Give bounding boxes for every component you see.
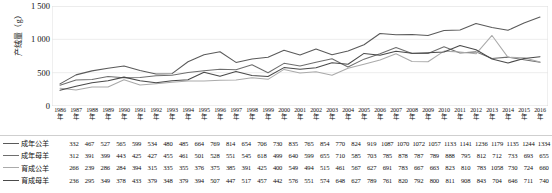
table-cell: 789	[364, 177, 380, 184]
table-cell: 655	[536, 152, 552, 159]
x-tick-unit: 年	[473, 114, 479, 121]
table-cell: 667	[411, 164, 427, 171]
table-cell: 1133	[442, 140, 458, 147]
series-values: 3123913994434254274554615015285515456184…	[66, 152, 552, 159]
table-cell: 888	[442, 152, 458, 159]
table-cell: 691	[379, 164, 395, 171]
table-cell: 1135	[505, 140, 521, 147]
table-cell: 527	[97, 140, 113, 147]
plot-area	[52, 6, 548, 106]
table-cell: 765	[301, 140, 317, 147]
table-cell: 332	[66, 140, 82, 147]
x-tick: 2012年	[468, 107, 484, 134]
table-cell: 1334	[536, 140, 552, 147]
x-tick: 1997年	[228, 107, 244, 134]
table-row: 成年公羊332467527565599534480485664769814654…	[0, 137, 552, 149]
table-cell: 295	[82, 177, 98, 184]
series-values: 3324675275655995344804856647698146547067…	[66, 140, 552, 147]
table-cell: 574	[317, 177, 333, 184]
table-cell: 812	[473, 152, 489, 159]
table-cell: 789	[426, 152, 442, 159]
table-cell: 442	[270, 177, 286, 184]
table-cell: 394	[129, 164, 145, 171]
table-cell: 627	[364, 164, 380, 171]
table-cell: 549	[285, 164, 301, 171]
table-cell: 457	[254, 177, 270, 184]
table-cell: 335	[160, 164, 176, 171]
x-tick: 1986年	[52, 107, 68, 134]
table-cell: 461	[332, 164, 348, 171]
table-cell: 585	[348, 152, 364, 159]
x-tick: 2000年	[276, 107, 292, 134]
y-tick-label: 1 000	[31, 34, 50, 44]
x-tick: 2003年	[324, 107, 340, 134]
table-cell: 919	[364, 140, 380, 147]
x-tick-unit: 年	[297, 114, 303, 121]
chart-figure: 产绒量（g） 05001 0001 500 1986年1987年1988年198…	[0, 0, 552, 193]
x-tick-unit: 年	[361, 114, 367, 121]
table-cell: 730	[270, 140, 286, 147]
table-cell: 627	[348, 177, 364, 184]
series-legend-2: 成年母羊	[0, 150, 66, 160]
table-cell: 724	[520, 164, 536, 171]
table-cell: 654	[238, 140, 254, 147]
legend-line-icon	[3, 167, 19, 168]
table-cell: 567	[348, 164, 364, 171]
table-top-divider	[0, 135, 552, 136]
table-cell: 1179	[489, 140, 505, 147]
table-cell: 349	[97, 177, 113, 184]
x-tick-unit: 年	[249, 114, 255, 121]
table-cell: 378	[113, 177, 129, 184]
table-cell: 480	[160, 140, 176, 147]
table-cell: 545	[238, 152, 254, 159]
table-cell: 878	[395, 152, 411, 159]
x-tick: 2014年	[500, 107, 516, 134]
x-tick: 2009年	[420, 107, 436, 134]
x-tick-unit: 年	[457, 114, 463, 121]
table-cell: 1072	[411, 140, 427, 147]
table-cell: 835	[285, 140, 301, 147]
x-tick-unit: 年	[233, 114, 239, 121]
x-tick: 2002年	[308, 107, 324, 134]
table-cell: 820	[395, 177, 411, 184]
table-cell: 379	[144, 177, 160, 184]
y-tick-label: 500	[37, 68, 50, 78]
table-cell: 710	[332, 152, 348, 159]
table-cell: 515	[317, 164, 333, 171]
y-tick-label: 1 500	[31, 1, 50, 11]
table-cell: 599	[129, 140, 145, 147]
series-values: 2362953493784333793483793945074475174574…	[66, 177, 552, 184]
x-tick: 2015年	[516, 107, 532, 134]
table-cell: 761	[379, 177, 395, 184]
table-body: 成年公羊332467527565599534480485664769814654…	[0, 137, 552, 186]
table-cell: 517	[238, 177, 254, 184]
table-cell: 703	[364, 152, 380, 159]
x-tick: 1999年	[260, 107, 276, 134]
x-tick-unit: 年	[409, 114, 415, 121]
table-cell: 455	[160, 152, 176, 159]
table-cell: 551	[301, 177, 317, 184]
table-cell: 785	[379, 152, 395, 159]
table-cell: 655	[317, 152, 333, 159]
x-tick-unit: 年	[185, 114, 191, 121]
x-tick: 1993年	[164, 107, 180, 134]
table-cell: 640	[285, 152, 301, 159]
table-cell: 467	[82, 140, 98, 147]
table-cell: 433	[129, 177, 145, 184]
table-cell: 379	[176, 177, 192, 184]
table-cell: 394	[191, 177, 207, 184]
table-cell: 286	[97, 164, 113, 171]
table-cell: 266	[66, 164, 82, 171]
table-cell: 800	[426, 177, 442, 184]
table-cell: 618	[254, 152, 270, 159]
table-cell: 236	[66, 177, 82, 184]
table-cell: 399	[97, 152, 113, 159]
x-tick-unit: 年	[345, 114, 351, 121]
series-name: 育成公羊	[21, 163, 49, 173]
legend-data-table: 成年公羊332467527565599534480485664769814654…	[0, 135, 552, 193]
table-cell: 1087	[379, 140, 395, 147]
x-tick-unit: 年	[505, 114, 511, 121]
table-cell: 843	[473, 177, 489, 184]
x-tick: 2001年	[292, 107, 308, 134]
x-tick-unit: 年	[265, 114, 271, 121]
